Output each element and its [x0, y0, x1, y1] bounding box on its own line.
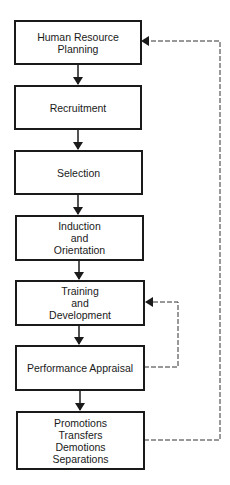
- node-label: Orientation: [54, 244, 105, 256]
- node-selection: Selection: [14, 150, 143, 195]
- node-induction-orientation: Induction and Orientation: [15, 215, 144, 261]
- node-label: Selection: [57, 167, 100, 179]
- node-label: Recruitment: [50, 102, 107, 114]
- feedback-appraisal-to-training: [144, 302, 178, 367]
- node-promotions-transfers: Promotions Transfers Demotions Separatio…: [16, 411, 145, 470]
- node-label: Demotions: [55, 441, 105, 453]
- node-recruitment: Recruitment: [14, 85, 142, 130]
- node-label: Planning: [58, 43, 99, 55]
- node-label: and: [71, 297, 89, 309]
- node-label: Training: [61, 285, 99, 297]
- node-label: Promotions: [54, 417, 107, 429]
- feedback-outcomes-to-hrp: [142, 41, 220, 440]
- node-label: Performance Appraisal: [27, 362, 133, 374]
- node-label: Development: [49, 309, 111, 321]
- node-label: Separations: [52, 453, 108, 465]
- node-label: and: [71, 232, 89, 244]
- node-human-resource-planning: Human Resource Planning: [14, 20, 142, 65]
- node-label: Human Resource: [37, 31, 119, 43]
- node-training-development: Training and Development: [15, 280, 145, 326]
- node-performance-appraisal: Performance Appraisal: [15, 345, 145, 391]
- node-label: Transfers: [59, 429, 103, 441]
- node-label: Induction: [58, 220, 101, 232]
